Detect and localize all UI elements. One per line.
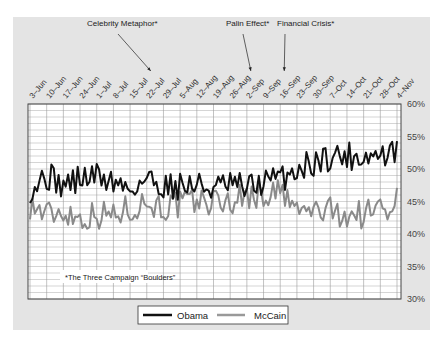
y-tick-label: 60% <box>407 99 425 109</box>
y-tick-label: 50% <box>407 164 425 174</box>
x-tick-label: 3–Jun <box>28 78 49 100</box>
y-tick-label: 45% <box>407 197 425 207</box>
grid-lines <box>28 104 401 299</box>
y-tick-label: 35% <box>407 262 425 272</box>
legend-obama-label: Obama <box>177 310 209 321</box>
y-tick-label: 30% <box>407 294 425 304</box>
y-tick-label: 40% <box>407 229 425 239</box>
footnote-text: *The Three Campaign “Boulders” <box>65 273 176 282</box>
line-chart: 3–Jun10–Jun17–Jun24–Jun1–Jul8–Jul15–Jul2… <box>0 0 446 346</box>
x-axis-tick-labels: 3–Jun10–Jun17–Jun24–Jun1–Jul8–Jul15–Jul2… <box>28 73 417 100</box>
annotation-label: Palin Effect* <box>226 19 269 28</box>
legend-mccain-label: McCain <box>254 310 286 321</box>
y-axis-tick-labels: 60%55%50%45%40%35%30% <box>407 99 425 304</box>
annotation-label: Financial Crisis* <box>277 19 334 28</box>
event-annotations: Celebrity Metaphor*Palin Effect*Financia… <box>87 19 334 71</box>
x-tick-label: 8–Jul <box>111 80 130 101</box>
legend: Obama McCain <box>138 306 288 324</box>
y-tick-label: 55% <box>407 132 425 142</box>
annotation-label: Celebrity Metaphor* <box>87 19 158 28</box>
